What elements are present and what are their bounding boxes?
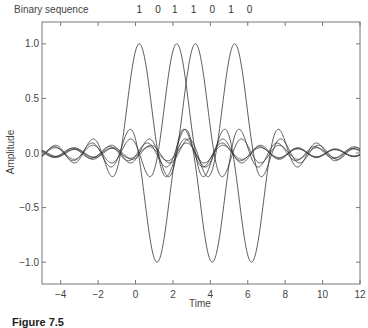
y-tick-label: −0.5	[19, 202, 39, 213]
x-tick-label: 2	[170, 289, 176, 300]
x-axis-title: Time	[189, 298, 211, 309]
bit-label: 0	[209, 4, 215, 15]
x-tick-label: 6	[245, 289, 251, 300]
x-tick-label: 0	[133, 289, 139, 300]
y-tick-label: 1.0	[25, 38, 39, 49]
bit-label: 1	[172, 4, 178, 15]
x-tick-label: 8	[282, 289, 288, 300]
y-axis-title: Amplitude	[5, 129, 16, 174]
bit-label: 0	[247, 4, 253, 15]
bit-label: 0	[155, 4, 161, 15]
y-tick-label: 0.0	[25, 148, 39, 159]
pulse-curves	[42, 44, 360, 262]
x-axis-ticks: −4−2024681012	[55, 22, 366, 300]
bit-label: 1	[228, 4, 234, 15]
figure-caption: Figure 7.5	[12, 316, 64, 328]
bit-label: 1	[191, 4, 197, 15]
binary-sequence-labels: 1011010	[136, 4, 252, 15]
y-tick-label: −1.0	[19, 257, 39, 268]
y-axis-ticks: 1.00.50.0−0.5−1.0	[19, 38, 360, 267]
y-tick-label: 0.5	[25, 93, 39, 104]
binary-sequence-title: Binary sequence	[14, 4, 89, 15]
x-tick-label: −4	[55, 289, 67, 300]
x-tick-label: 12	[354, 289, 366, 300]
bit-label: 1	[136, 4, 142, 15]
x-tick-label: 10	[317, 289, 329, 300]
figure-caption-label: Figure 7.5	[12, 316, 64, 328]
x-tick-label: −2	[92, 289, 104, 300]
